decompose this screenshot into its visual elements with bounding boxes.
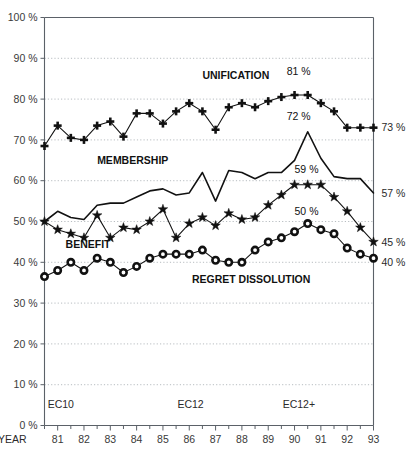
- y-tick-label-100: 100 %: [8, 11, 38, 23]
- datapoint-regret-dissolution-23: [344, 245, 350, 251]
- datapoint-unification-12: [198, 107, 206, 115]
- datapoint-unification-13: [212, 126, 220, 134]
- markers-regret-dissolution: [41, 220, 376, 279]
- datapoint-unification-15: [238, 99, 246, 107]
- x-tick-label-84: 84: [131, 433, 143, 445]
- datapoint-benefit-2: [66, 229, 76, 238]
- x-axis-title: YEAR: [0, 433, 27, 445]
- y-axis-labels-group: 0 %10 %20 %30 %40 %50 %60 %70 %80 %90 %1…: [8, 11, 38, 431]
- datapoint-unification-24: [356, 124, 364, 132]
- datapoint-regret-dissolution-14: [226, 259, 232, 265]
- x-tick-label-91: 91: [315, 433, 327, 445]
- x-tick-label-90: 90: [289, 433, 301, 445]
- datapoint-regret-dissolution-8: [147, 255, 153, 261]
- axis-title-group: YEAR: [0, 433, 27, 445]
- y-tick-label-80: 80 %: [14, 93, 38, 105]
- label-membership: MEMBERSHIP: [97, 154, 168, 166]
- datapoint-unification-20: [304, 91, 312, 99]
- datapoint-regret-dissolution-17: [265, 239, 271, 245]
- datapoint-regret-dissolution-25: [370, 255, 376, 261]
- eurobarometer-line-chart: 0 %10 %20 %30 %40 %50 %60 %70 %80 %90 %1…: [0, 0, 406, 453]
- right-label-unification: 73 %: [382, 121, 406, 133]
- x-tick-label-86: 86: [183, 433, 195, 445]
- datapoint-unification-14: [225, 103, 233, 111]
- ann-benefit-mid: 50 %: [295, 205, 319, 217]
- datapoint-regret-dissolution-19: [291, 229, 297, 235]
- datapoint-regret-dissolution-16: [252, 247, 258, 253]
- y-tick-label-40: 40 %: [14, 256, 38, 268]
- y-tick-label-10: 10 %: [14, 378, 38, 390]
- label-unification: UNIFICATION: [202, 69, 269, 81]
- y-tick-label-30: 30 %: [14, 297, 38, 309]
- datapoint-unification-7: [133, 109, 141, 117]
- datapoint-regret-dissolution-15: [239, 259, 245, 265]
- datapoint-regret-dissolution-10: [173, 251, 179, 257]
- y-tick-label-20: 20 %: [14, 338, 38, 350]
- datapoint-regret-dissolution-4: [94, 255, 100, 261]
- y-tick-label-60: 60 %: [14, 174, 38, 186]
- y-tick-label-50: 50 %: [14, 215, 38, 227]
- chart-container: 0 %10 %20 %30 %40 %50 %60 %70 %80 %90 %1…: [0, 0, 406, 453]
- datapoint-unification-11: [185, 99, 193, 107]
- datapoint-benefit-12: [198, 212, 208, 221]
- period-ec10: EC10: [48, 398, 74, 410]
- datapoint-regret-dissolution-2: [68, 259, 74, 265]
- right-label-benefit: 45 %: [382, 236, 406, 248]
- datapoint-unification-16: [251, 103, 259, 111]
- ann-unification-peak: 81 %: [287, 65, 311, 77]
- datapoint-regret-dissolution-24: [357, 251, 363, 257]
- datapoint-unification-0: [41, 142, 49, 150]
- datapoint-benefit-20: [303, 180, 313, 189]
- x-tick-label-81: 81: [52, 433, 64, 445]
- ann-unification-mid: 72 %: [287, 110, 311, 122]
- datapoint-regret-dissolution-13: [212, 257, 218, 263]
- x-axis-labels-group: 81828384858687888990919293: [52, 433, 380, 445]
- datapoint-benefit-11: [185, 219, 195, 228]
- label-benefit: BENEFIT: [66, 238, 112, 250]
- datapoint-unification-21: [317, 99, 325, 107]
- x-tick-label-82: 82: [78, 433, 90, 445]
- label-regret: REGRET DISSOLUTION: [192, 273, 310, 285]
- datapoint-regret-dissolution-18: [278, 235, 284, 241]
- datapoint-regret-dissolution-5: [107, 259, 113, 265]
- x-tick-label-92: 92: [341, 433, 353, 445]
- datapoint-benefit-15: [237, 214, 247, 223]
- datapoint-unification-19: [291, 91, 299, 99]
- right-edge-labels-group: 73 %57 %45 %40 %: [382, 121, 406, 268]
- right-label-regret: 40 %: [382, 256, 406, 268]
- datapoint-unification-17: [264, 97, 272, 105]
- datapoint-regret-dissolution-1: [54, 267, 60, 273]
- datapoint-unification-18: [277, 93, 285, 101]
- x-tick-label-85: 85: [157, 433, 169, 445]
- datapoint-benefit-1: [53, 225, 63, 234]
- series-line-benefit: [45, 185, 374, 242]
- datapoint-regret-dissolution-12: [199, 247, 205, 253]
- datapoint-regret-dissolution-0: [41, 273, 47, 279]
- series-line-membership: [45, 132, 374, 222]
- period-ec12: EC12: [177, 398, 203, 410]
- datapoint-regret-dissolution-9: [160, 251, 166, 257]
- y-tick-label-90: 90 %: [14, 52, 38, 64]
- datapoint-regret-dissolution-3: [81, 267, 87, 273]
- datapoint-regret-dissolution-11: [186, 251, 192, 257]
- datapoint-unification-25: [370, 124, 378, 132]
- datapoint-regret-dissolution-7: [133, 263, 139, 269]
- datapoint-benefit-7: [132, 225, 142, 234]
- period-markers-group: EC10EC12EC12+: [48, 398, 315, 410]
- datapoint-regret-dissolution-6: [120, 269, 126, 275]
- x-tick-label-89: 89: [262, 433, 274, 445]
- x-tick-label-87: 87: [210, 433, 222, 445]
- datapoint-regret-dissolution-22: [331, 231, 337, 237]
- datapoint-regret-dissolution-20: [305, 220, 311, 226]
- ann-membership-mid: 59 %: [295, 163, 319, 175]
- y-tick-label-70: 70 %: [14, 134, 38, 146]
- x-tick-label-93: 93: [368, 433, 380, 445]
- datapoint-benefit-4: [92, 210, 102, 219]
- y-tick-label-0: 0 %: [19, 419, 37, 431]
- right-label-membership: 57 %: [382, 187, 406, 199]
- period-ec12plus: EC12+: [283, 398, 315, 410]
- x-tick-label-88: 88: [236, 433, 248, 445]
- datapoint-regret-dissolution-21: [318, 226, 324, 232]
- x-tick-label-83: 83: [104, 433, 116, 445]
